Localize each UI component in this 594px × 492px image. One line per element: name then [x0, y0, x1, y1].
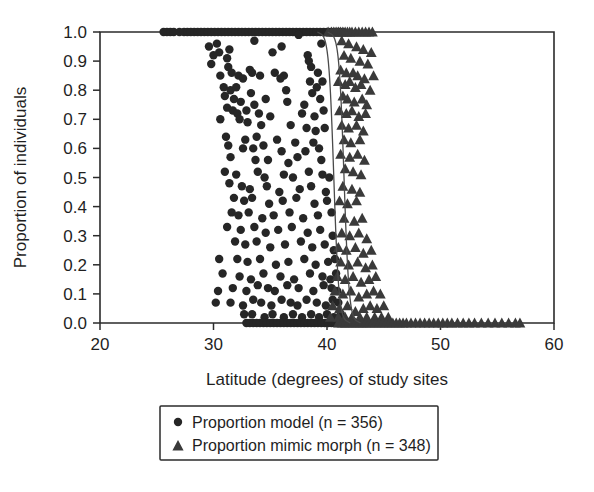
data-point-circle [254, 281, 262, 289]
data-point-circle [268, 48, 276, 56]
data-point-circle [258, 214, 266, 222]
data-point-circle [226, 298, 234, 306]
data-point-circle [237, 226, 245, 234]
data-point-circle [214, 287, 222, 295]
data-point-circle [262, 229, 270, 237]
data-point-circle [223, 54, 231, 62]
data-point-circle [307, 182, 315, 190]
data-point-circle [248, 69, 256, 77]
y-tick-label: 0.3 [63, 227, 87, 246]
data-point-circle [243, 118, 251, 126]
y-tick-label: 0.2 [63, 256, 87, 275]
data-point-circle [267, 301, 275, 309]
data-point-circle [264, 156, 272, 164]
data-point-circle [294, 284, 302, 292]
data-point-circle [218, 269, 226, 277]
data-point-circle [237, 98, 245, 106]
legend-circle-icon [174, 418, 182, 426]
x-tick-label: 50 [431, 335, 450, 354]
data-point-circle [241, 135, 249, 143]
data-point-circle [249, 296, 257, 304]
x-tick-label: 30 [204, 335, 223, 354]
data-point-circle [257, 298, 265, 306]
y-tick-label: 0.8 [63, 81, 87, 100]
data-point-circle [242, 106, 250, 114]
data-point-circle [323, 197, 331, 205]
data-point-circle [246, 185, 254, 193]
data-point-circle [234, 211, 242, 219]
data-point-circle [240, 310, 248, 318]
data-point-circle [273, 135, 281, 143]
data-point-circle [262, 95, 270, 103]
data-point-circle [294, 31, 302, 39]
data-point-circle [281, 240, 289, 248]
data-point-circle [254, 167, 262, 175]
y-tick-label: 0.7 [63, 110, 87, 129]
data-point-circle [216, 115, 224, 123]
data-point-circle [277, 42, 285, 50]
data-point-circle [293, 301, 301, 309]
data-point-circle [259, 141, 267, 149]
data-point-circle [241, 240, 249, 248]
scatter-plot-figure: 2030405060 0.00.10.20.30.40.50.60.70.80.… [0, 0, 594, 492]
data-point-circle [288, 223, 296, 231]
data-point-circle [260, 173, 268, 181]
data-point-circle [321, 240, 329, 248]
data-point-circle [321, 124, 329, 132]
data-point-circle [299, 214, 307, 222]
data-point-circle [205, 42, 213, 50]
data-point-circle [284, 159, 292, 167]
data-point-circle [269, 211, 277, 219]
y-tick-label: 0.9 [63, 52, 87, 71]
data-point-circle [289, 310, 297, 318]
data-point-circle [316, 226, 324, 234]
data-point-circle [296, 185, 304, 193]
data-point-circle [229, 284, 237, 292]
data-point-circle [250, 37, 258, 45]
data-point-circle [315, 144, 323, 152]
data-point-circle [317, 156, 325, 164]
data-point-circle [257, 121, 265, 129]
data-point-circle [300, 255, 308, 263]
legend-label: Proportion mimic morph (n = 348) [192, 437, 431, 454]
data-point-circle [317, 39, 325, 47]
data-point-circle [250, 223, 258, 231]
y-tick-label: 0.6 [63, 139, 87, 158]
data-point-circle [268, 310, 276, 318]
data-point-circle [256, 71, 264, 79]
data-point-circle [319, 281, 327, 289]
data-point-circle [266, 243, 274, 251]
data-point-circle [293, 153, 301, 161]
y-tick-label: 0.1 [63, 285, 87, 304]
data-point-circle [310, 112, 318, 120]
data-point-circle [223, 223, 231, 231]
data-point-circle [311, 261, 319, 269]
data-point-circle [251, 156, 259, 164]
data-point-circle [248, 310, 256, 318]
data-point-circle [247, 275, 255, 283]
y-tick-label: 1.0 [63, 23, 87, 42]
data-point-circle [225, 45, 233, 53]
data-point-circle [235, 115, 243, 123]
data-point-circle [311, 127, 319, 135]
data-point-circle [308, 243, 316, 251]
data-point-circle [235, 272, 243, 280]
data-point-circle [302, 296, 310, 304]
data-point-circle [280, 170, 288, 178]
chart-svg: 2030405060 0.00.10.20.30.40.50.60.70.80.… [0, 0, 594, 492]
data-point-circle [265, 199, 273, 207]
data-point-circle [298, 109, 306, 117]
data-point-circle [322, 188, 330, 196]
data-point-circle [286, 121, 294, 129]
y-axis-title: Proportion of individuals [11, 87, 30, 268]
data-point-circle [247, 89, 255, 97]
data-point-circle [244, 208, 252, 216]
data-point-circle [301, 147, 309, 155]
data-point-circle [216, 71, 224, 79]
data-point-circle [291, 138, 299, 146]
data-point-circle [277, 147, 285, 155]
x-tick-label: 60 [545, 335, 564, 354]
chart-legend: Proportion model (n = 356)Proportion mim… [160, 406, 438, 460]
data-point-circle [277, 296, 285, 304]
data-point-circle [275, 188, 283, 196]
